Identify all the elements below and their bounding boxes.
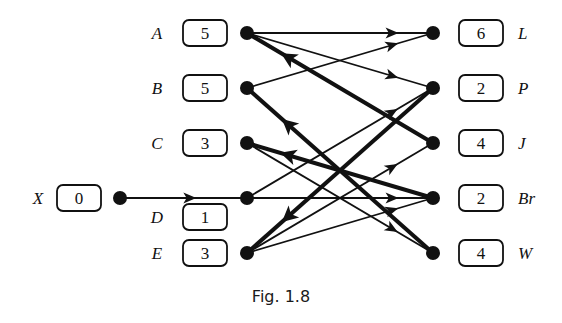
node-dot-Br: [426, 191, 440, 205]
node-label-P: P: [517, 79, 528, 98]
node-label-Br: Br: [518, 189, 535, 208]
node-label-A: A: [151, 24, 163, 43]
node-value-box-B: 5: [183, 75, 227, 101]
node-dot-C: [240, 136, 254, 150]
node-value-box-X: 0: [57, 185, 101, 211]
svg-text:1: 1: [201, 208, 210, 227]
svg-text:3: 3: [201, 134, 210, 153]
svg-text:5: 5: [201, 79, 210, 98]
node-value-box-Br: 2: [459, 185, 503, 211]
node-dot-J: [426, 136, 440, 150]
node-label-W: W: [518, 244, 534, 263]
svg-text:5: 5: [201, 24, 210, 43]
edge-X-to-D: [120, 193, 247, 204]
edge-J-to-A: [247, 33, 433, 143]
node-dot-X: [113, 191, 127, 205]
bipartite-flow-diagram: X0A5B5C3D1E36L2P4J2Br4W: [0, 0, 562, 323]
arrowhead-icon: [384, 69, 400, 83]
node-dot-L: [426, 26, 440, 40]
node-label-E: E: [151, 244, 163, 263]
node-dot-E: [240, 246, 254, 260]
node-label-B: B: [152, 79, 163, 98]
svg-text:2: 2: [477, 79, 486, 98]
svg-text:3: 3: [201, 244, 210, 263]
node-label-C: C: [151, 134, 163, 153]
node-label-J: J: [518, 134, 527, 153]
figure-caption: Fig. 1.8: [0, 287, 562, 306]
node-value-box-L: 6: [459, 20, 503, 46]
svg-text:4: 4: [477, 134, 486, 153]
svg-text:0: 0: [75, 189, 84, 208]
arrowhead-icon: [384, 38, 400, 52]
svg-text:2: 2: [477, 189, 486, 208]
node-dot-A: [240, 26, 254, 40]
arrowhead-icon: [384, 159, 401, 175]
node-value-box-C: 3: [183, 130, 227, 156]
node-value-box-W: 4: [459, 240, 503, 266]
edge-E-to-Br: [247, 198, 433, 253]
edge-A-to-L: [247, 28, 433, 39]
node-dot-P: [426, 81, 440, 95]
node-value-box-E: 3: [183, 240, 227, 266]
edges-layer: [120, 28, 433, 254]
node-dot-B: [240, 81, 254, 95]
edge-D-to-P: [247, 88, 433, 198]
node-value-box-J: 4: [459, 130, 503, 156]
node-label-X: X: [32, 189, 44, 208]
svg-text:6: 6: [477, 24, 486, 43]
svg-text:4: 4: [477, 244, 486, 263]
node-value-box-P: 2: [459, 75, 503, 101]
node-value-box-A: 5: [183, 20, 227, 46]
arrowhead-icon: [277, 46, 299, 68]
node-label-L: L: [517, 24, 527, 43]
node-dot-W: [426, 246, 440, 260]
node-value-box-D: 1: [183, 204, 227, 230]
node-dot-D: [240, 191, 254, 205]
node-label-D: D: [150, 208, 164, 227]
